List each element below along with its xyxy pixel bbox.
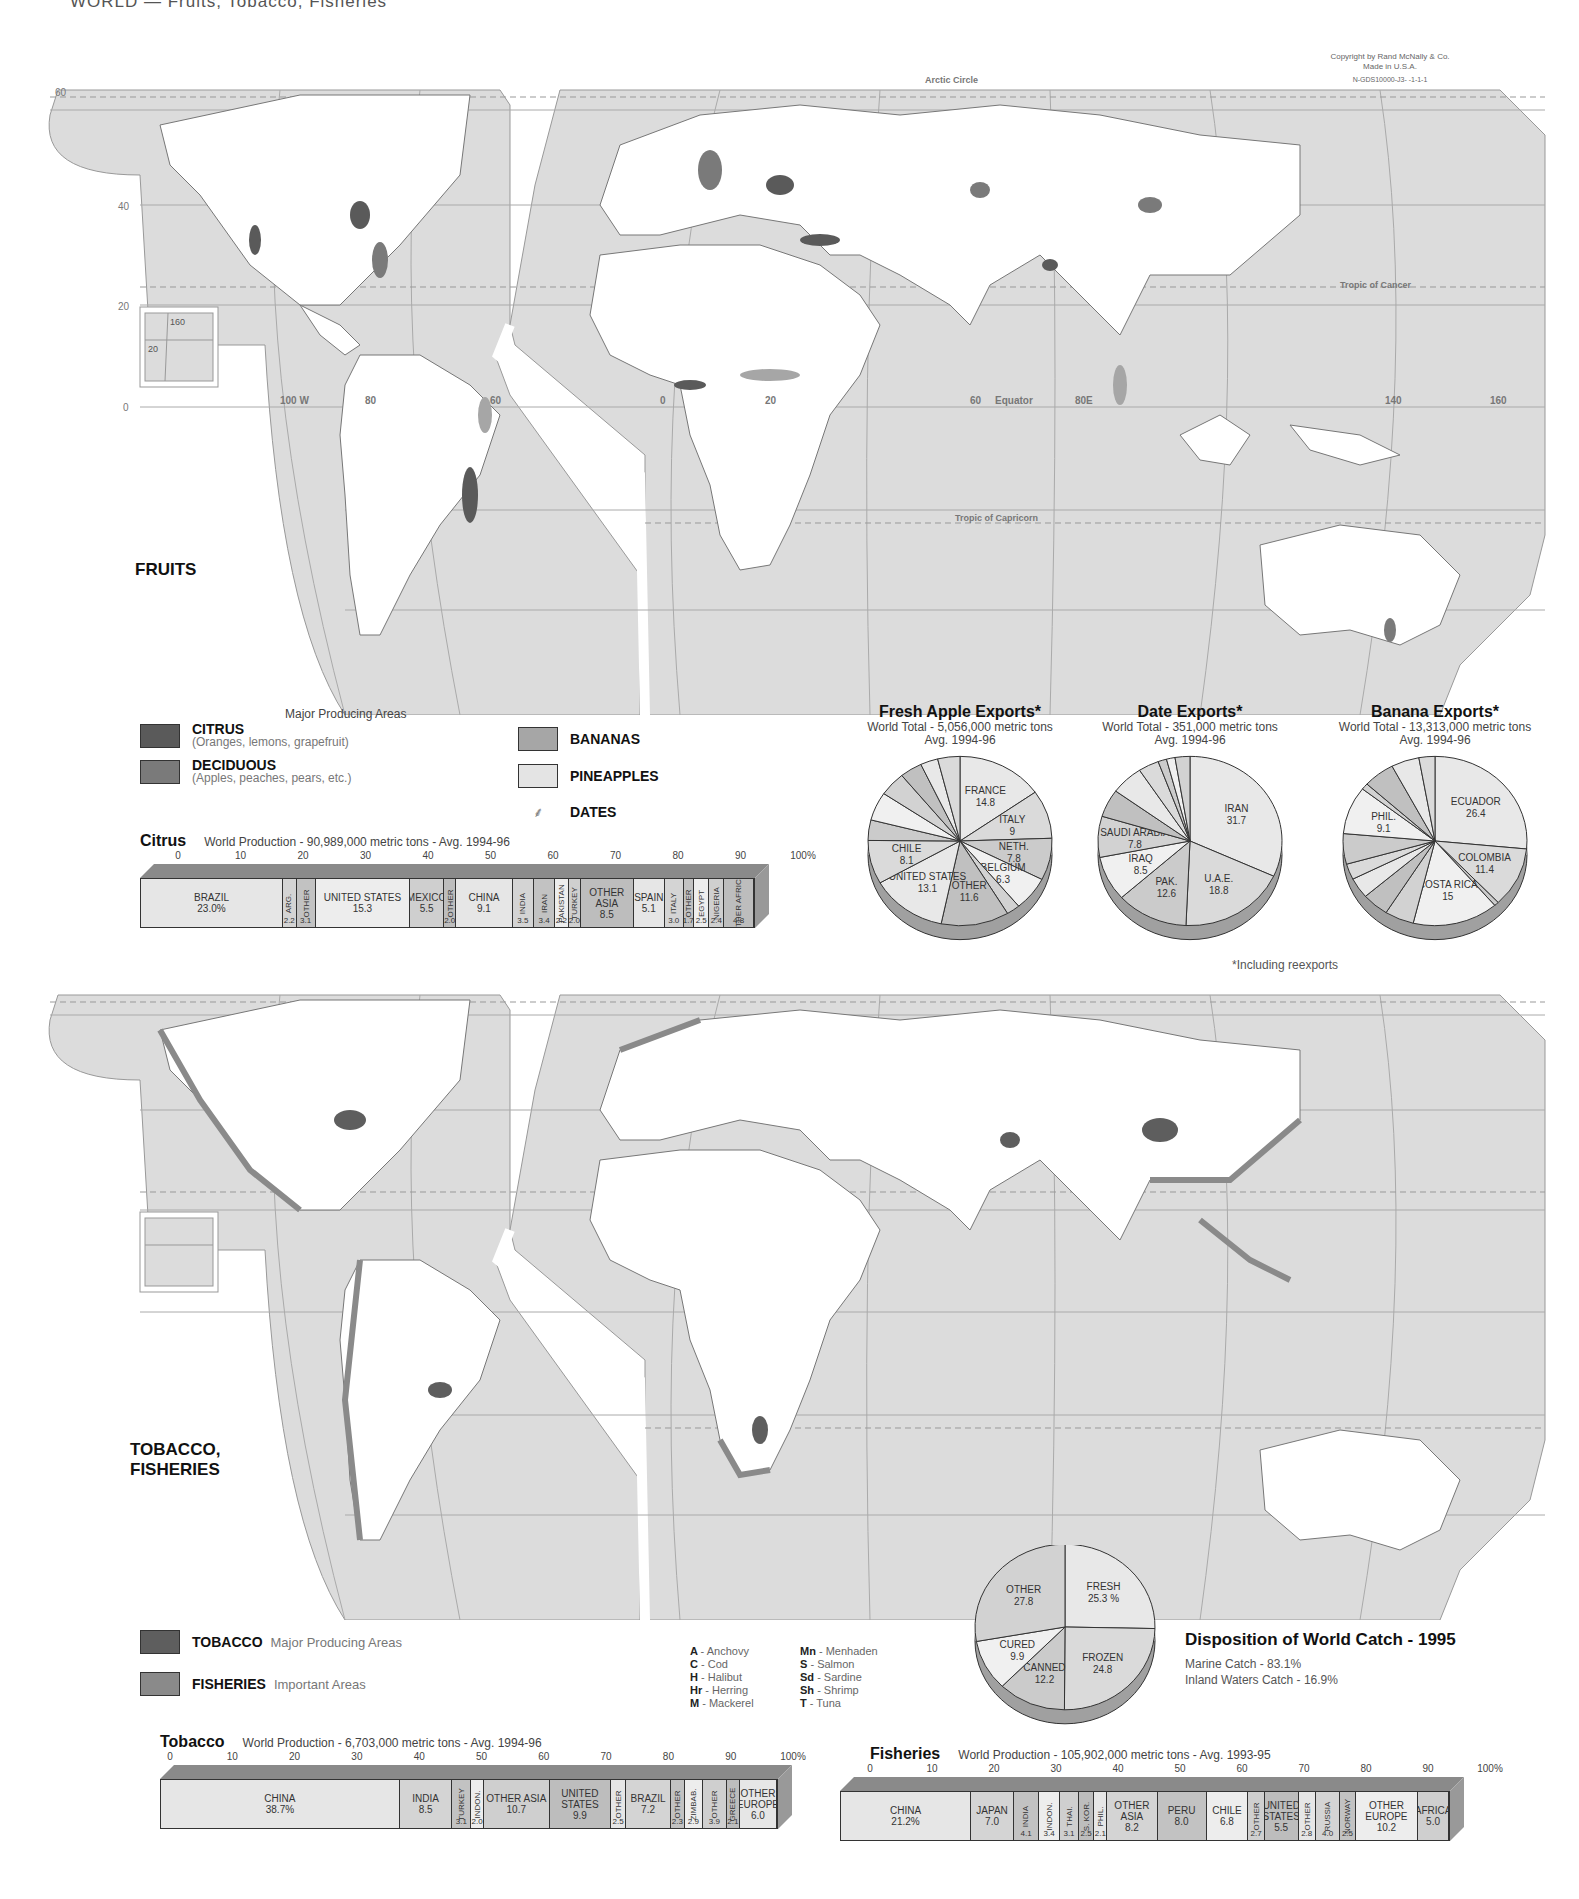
arctic-circle-label: Arctic Circle xyxy=(925,75,978,85)
bar-segment: S. KOR.2.5 xyxy=(1079,1792,1094,1840)
segment-value: 2.2 xyxy=(556,915,567,926)
fish-code-item: M - Mackerel xyxy=(690,1697,800,1710)
pie-slice-label: OTHER xyxy=(1006,1584,1041,1595)
legend-dates-title: DATES xyxy=(570,805,616,819)
banana-pie: ECUADOR26.4COLOMBIA11.4COSTA RICA15PHIL.… xyxy=(1335,753,1535,953)
segment-label: RUSSIA xyxy=(1322,1801,1333,1831)
segment-value: 6.0 xyxy=(751,1810,765,1821)
segment-label: ITALY xyxy=(668,892,679,913)
segment-label: OTHER xyxy=(672,1790,683,1818)
major-producing-areas-caption: Major Producing Areas xyxy=(285,707,406,721)
segment-value: 5.0 xyxy=(1426,1816,1440,1827)
banana-exports-chart: Banana Exports* World Total - 13,313,000… xyxy=(1310,703,1560,957)
segment-label: UNITED STATES xyxy=(1265,1800,1299,1822)
segment-label: INDON. xyxy=(1044,1802,1055,1830)
pie-slice-value: 7.8 xyxy=(1128,839,1142,850)
pie-slice-label: PHIL. xyxy=(1371,811,1396,822)
segment-value: 2.0 xyxy=(472,1816,483,1827)
segment-value: 23.0% xyxy=(197,903,225,914)
axis-tick: 20 xyxy=(297,850,308,861)
axis-tick: 30 xyxy=(351,1751,362,1762)
tobacco-chart-title: Tobacco xyxy=(160,1733,225,1751)
lon-160-label: 160 xyxy=(1490,395,1507,406)
segment-value: 3.1 xyxy=(300,915,311,926)
citrus-swatch xyxy=(140,724,180,748)
fish-code-item: T - Tuna xyxy=(800,1697,910,1710)
lon-140-label: 140 xyxy=(1385,395,1402,406)
axis-tick: 50 xyxy=(485,850,496,861)
segment-value: 7.2 xyxy=(641,1804,655,1815)
axis-tick: 50 xyxy=(1174,1763,1185,1774)
segment-label: OTHER xyxy=(709,1790,720,1818)
bar-segment: CHINA38.7% xyxy=(161,1780,400,1828)
segment-value: 2.2 xyxy=(284,915,295,926)
pie-slice-label: FROZEN xyxy=(1082,1652,1123,1663)
bar-segment: NORWAY2.5 xyxy=(1340,1792,1355,1840)
axis-tick: 10 xyxy=(926,1763,937,1774)
segment-value: 2.4 xyxy=(711,915,722,926)
fruits-map-graphic xyxy=(0,55,1579,715)
bar-segment: ITALY3.0 xyxy=(665,879,684,927)
segment-value: 3.9 xyxy=(709,1816,720,1827)
segment-value: 10.2 xyxy=(1377,1822,1396,1833)
bar-segment: INDON.2.0 xyxy=(471,1780,483,1828)
lon-80e-label: 80E xyxy=(1075,395,1093,406)
bar-segment: CHINA21.2% xyxy=(841,1792,971,1840)
bar-front-face: BRAZIL23.0%ARG.2.2OTHER3.1UNITED STATES1… xyxy=(140,878,755,928)
tropic-cancer-label: Tropic of Cancer xyxy=(1340,280,1411,290)
fish-code-item: S - Salmon xyxy=(800,1658,910,1671)
pie-slice-value: 11.6 xyxy=(960,892,979,903)
bar-top-face xyxy=(140,864,769,878)
pie-slice-value: 26.4 xyxy=(1466,808,1486,819)
citrus-bar-chart: Citrus World Production - 90,989,000 met… xyxy=(140,832,820,928)
segment-label: CHILE xyxy=(1212,1805,1241,1816)
segment-value: 9.1 xyxy=(477,903,491,914)
axis-tick: 70 xyxy=(1298,1763,1309,1774)
axis-tick: 90 xyxy=(735,850,746,861)
segment-label: OTHER xyxy=(1301,1802,1312,1830)
segment-value: 4.8 xyxy=(733,915,744,926)
segment-label: INDIA xyxy=(1021,1805,1032,1826)
bar-segment: PERU8.0 xyxy=(1158,1792,1207,1840)
legend-tobacco-sub: Major Producing Areas xyxy=(271,1635,403,1650)
segment-label: INDIA xyxy=(517,892,528,913)
pie-slice-label: IRAQ xyxy=(1128,853,1153,864)
bar-segment: JAPAN7.0 xyxy=(971,1792,1014,1840)
legend-bananas: BANANAS xyxy=(518,727,640,751)
pie-slice-value: 8.5 xyxy=(1134,865,1148,876)
pie-slice-label: CURED xyxy=(999,1639,1035,1650)
bar-segment: OTHER3.9 xyxy=(703,1780,727,1828)
segment-value: 2.9 xyxy=(688,1816,699,1827)
tobacco-chart-subtitle: World Production - 6,703,000 metric tons… xyxy=(243,1736,542,1750)
segment-value: 10.7 xyxy=(507,1804,526,1815)
bar-segment: OTHER ASIA10.7 xyxy=(484,1780,550,1828)
lon-60w-label: 60 xyxy=(490,395,501,406)
apple-chart-period: Avg. 1994-96 xyxy=(845,734,1075,747)
lon-80-label: 80 xyxy=(365,395,376,406)
legend-bananas-title: BANANAS xyxy=(570,732,640,746)
pie-slice-label: CANNED xyxy=(1023,1662,1065,1673)
legend-fisheries: FISHERIESImportant Areas xyxy=(140,1672,366,1696)
fish-code-item: Hr - Herring xyxy=(690,1684,800,1697)
pie-slice-value: 18.8 xyxy=(1209,885,1229,896)
tobacco-bar-chart: Tobacco World Production - 6,703,000 met… xyxy=(160,1733,840,1829)
segment-value: 15.3 xyxy=(353,903,372,914)
bar-segment: INDON.3.4 xyxy=(1039,1792,1060,1840)
citrus-chart-title: Citrus xyxy=(140,832,186,850)
axis-tick: 10 xyxy=(235,850,246,861)
axis-tick: 60 xyxy=(547,850,558,861)
pie-slice-label: COSTA RICA xyxy=(1418,879,1478,890)
legend-fisheries-sub: Important Areas xyxy=(274,1677,366,1692)
segment-value: 1.7 xyxy=(684,915,694,926)
segment-label: SPAIN xyxy=(634,892,663,903)
legend-deciduous-sub: (Apples, peaches, pears, etc.) xyxy=(192,772,351,785)
segment-label: CHINA xyxy=(264,1793,295,1804)
bar-segment: OTHER2.7 xyxy=(1248,1792,1265,1840)
bar-front-face: CHINA21.2%JAPAN7.0INDIA4.1INDON.3.4THAI.… xyxy=(840,1791,1450,1841)
bar-segment: OTHER AFRICA4.8 xyxy=(724,879,754,927)
segment-value: 9.9 xyxy=(573,1810,587,1821)
legend-pineapples-title: PINEAPPLES xyxy=(570,769,659,783)
legend-citrus-title: CITRUS xyxy=(192,722,349,736)
axis-tick: 80 xyxy=(1360,1763,1371,1774)
bar-segment: OTHER EUROPE10.2 xyxy=(1356,1792,1419,1840)
